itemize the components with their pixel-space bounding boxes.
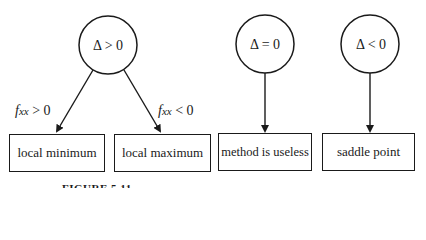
edge-to-local-minimum <box>57 70 93 131</box>
relation: > 0 <box>29 103 51 118</box>
edge-to-local-maximum <box>124 70 160 131</box>
delta-positive-label: Δ > 0 <box>93 38 123 54</box>
outcome-local-maximum: local maximum <box>114 134 211 172</box>
outcome-method-useless: method is useless <box>218 133 312 171</box>
edge-label-fxx-negative: fxx < 0 <box>158 103 194 119</box>
outcome-local-minimum: local minimum <box>9 134 105 172</box>
xx-subscript: xx <box>162 105 172 117</box>
figure-caption: FIGURE 5.11 <box>62 182 132 188</box>
delta-zero-label: Δ = 0 <box>250 37 280 53</box>
xx-subscript: xx <box>19 105 29 117</box>
outcome-saddle-point: saddle point <box>322 133 415 171</box>
relation: < 0 <box>172 103 194 118</box>
edge-label-fxx-positive: fxx > 0 <box>15 103 51 119</box>
delta-negative-label: Δ < 0 <box>356 37 386 53</box>
